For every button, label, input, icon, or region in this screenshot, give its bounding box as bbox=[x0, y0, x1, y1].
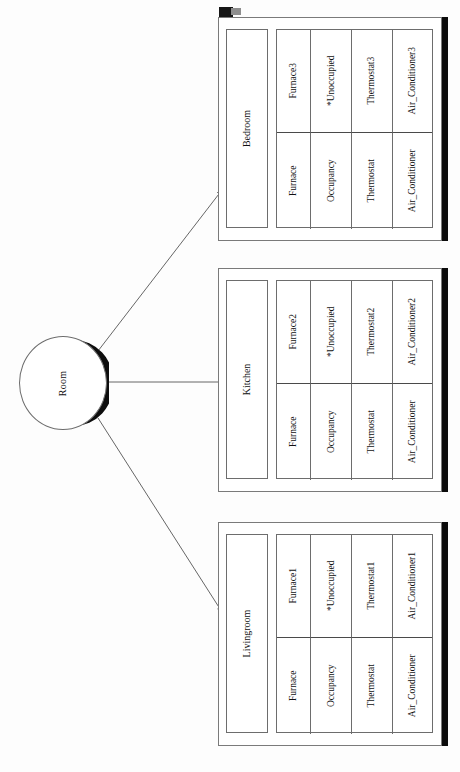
room-name-cell-bedroom: Bedroom bbox=[226, 29, 268, 228]
attr-generic-air-conditioner: Air_Conditioner bbox=[393, 133, 432, 229]
scan-artifact-smudge bbox=[231, 8, 241, 15]
attr-specific-occupancy: *Unoccupied bbox=[311, 281, 352, 384]
diagram-canvas: Room Bedroom Furnace3 *Unoccupied Thermo… bbox=[0, 0, 460, 772]
room-label: Room bbox=[58, 370, 69, 395]
attr-specific-thermostat: Thermostat1 bbox=[352, 535, 393, 638]
attr-generic-thermostat: Thermostat bbox=[352, 638, 393, 734]
attr-specific-furnace: Furnace2 bbox=[277, 281, 311, 384]
room-name-cell-livingroom: Livingroom bbox=[226, 534, 268, 733]
room-name-cell-kitchen: Kitchen bbox=[226, 280, 268, 479]
connector-room-to-livingroom bbox=[98, 418, 222, 612]
attr-generic-air-conditioner: Air_Conditioner bbox=[393, 384, 432, 480]
attr-specific-air-conditioner: Air_Conditioner1 bbox=[393, 535, 432, 638]
room-name-label: Livingroom bbox=[242, 610, 253, 658]
attr-specific-occupancy: *Unoccupied bbox=[311, 30, 352, 133]
attribute-grid-livingroom: Furnace1 *Unoccupied Thermostat1 Air_Con… bbox=[276, 534, 433, 733]
attr-generic-occupancy: Occupancy bbox=[311, 638, 352, 734]
connector-room-to-bedroom bbox=[98, 190, 222, 351]
attr-generic-furnace: Furnace bbox=[277, 638, 311, 734]
attr-specific-thermostat: Thermostat2 bbox=[352, 281, 393, 384]
attribute-grid-bedroom: Furnace3 *Unoccupied Thermostat3 Air_Con… bbox=[276, 29, 433, 228]
attr-generic-thermostat: Thermostat bbox=[352, 133, 393, 229]
attr-generic-occupancy: Occupancy bbox=[311, 133, 352, 229]
room-name-label: Bedroom bbox=[242, 110, 253, 147]
room-name-label: Kitchen bbox=[242, 364, 253, 396]
attr-generic-air-conditioner: Air_Conditioner bbox=[393, 638, 432, 734]
attr-generic-furnace: Furnace bbox=[277, 384, 311, 480]
attribute-grid-kitchen: Furnace2 *Unoccupied Thermostat2 Air_Con… bbox=[276, 280, 433, 479]
attr-specific-occupancy: *Unoccupied bbox=[311, 535, 352, 638]
attr-specific-thermostat: Thermostat3 bbox=[352, 30, 393, 133]
attr-specific-air-conditioner: Air_Conditioner3 bbox=[393, 30, 432, 133]
room-label-wrap: Room bbox=[19, 336, 107, 430]
attr-generic-occupancy: Occupancy bbox=[311, 384, 352, 480]
attr-generic-furnace: Furnace bbox=[277, 133, 311, 229]
attr-specific-furnace: Furnace3 bbox=[277, 30, 311, 133]
attr-specific-furnace: Furnace1 bbox=[277, 535, 311, 638]
attr-specific-air-conditioner: Air_Conditioner2 bbox=[393, 281, 432, 384]
attr-generic-thermostat: Thermostat bbox=[352, 384, 393, 480]
room-entity-node[interactable]: Room bbox=[19, 336, 109, 432]
